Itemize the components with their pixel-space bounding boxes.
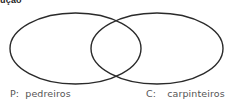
set-p-label: P: pedreiros — [10, 88, 71, 100]
set-c-key: C: — [146, 88, 156, 99]
set-c-name: carpinteiros — [167, 88, 225, 99]
set-p-name: pedreiros — [25, 88, 70, 99]
set-c-label: C: carpinteiros — [146, 88, 225, 100]
set-p-key: P: — [10, 88, 19, 99]
set-c-ellipse — [91, 13, 223, 84]
set-p-ellipse — [10, 13, 141, 84]
